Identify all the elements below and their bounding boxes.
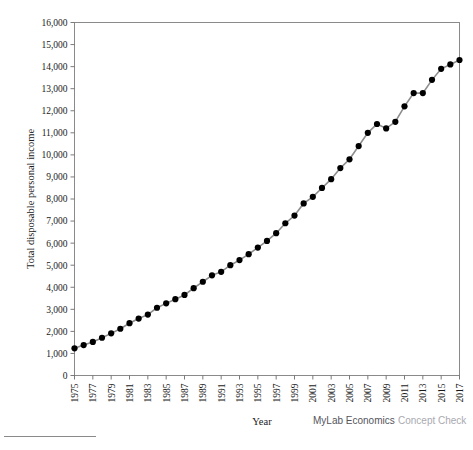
data-point bbox=[310, 194, 316, 200]
data-point bbox=[328, 176, 334, 182]
x-axis-tick-label: 1979 bbox=[107, 383, 117, 402]
x-axis-tick-label: 2007 bbox=[363, 383, 373, 402]
x-axis-tick-label: 2017 bbox=[455, 383, 465, 402]
x-axis-ticks: 1975197719791981198319851987198919911993… bbox=[70, 376, 465, 403]
data-point bbox=[365, 130, 371, 136]
data-point bbox=[255, 244, 261, 250]
data-point bbox=[126, 320, 132, 326]
y-axis-tick-label: 10,000 bbox=[41, 150, 67, 160]
y-axis-tick-label: 3,000 bbox=[46, 305, 68, 315]
data-point bbox=[346, 156, 352, 162]
data-point bbox=[172, 296, 178, 302]
x-axis-tick-label: 2003 bbox=[327, 383, 337, 402]
data-point bbox=[99, 335, 105, 341]
data-point bbox=[356, 143, 362, 149]
x-axis-tick-label: 1975 bbox=[70, 383, 80, 402]
data-point bbox=[108, 330, 114, 336]
y-axis-tick-label: 1,000 bbox=[46, 349, 68, 359]
data-point bbox=[420, 90, 426, 96]
concept-check-label: Concept Check bbox=[398, 415, 467, 426]
x-axis-tick-label: 1991 bbox=[217, 383, 227, 402]
data-point bbox=[90, 339, 96, 345]
x-axis-tick-label: 1981 bbox=[125, 383, 135, 402]
data-point bbox=[81, 342, 87, 348]
x-axis-tick-label: 1977 bbox=[88, 383, 98, 402]
y-axis-ticks: 01,0002,0003,0004,0005,0006,0007,0008,00… bbox=[41, 18, 74, 381]
data-point bbox=[181, 292, 187, 298]
data-point bbox=[392, 119, 398, 125]
data-point bbox=[200, 279, 206, 285]
data-point bbox=[429, 77, 435, 83]
data-point bbox=[401, 103, 407, 109]
y-axis-tick-label: 9,000 bbox=[46, 172, 68, 182]
y-axis-tick-label: 16,000 bbox=[41, 18, 67, 28]
data-point bbox=[273, 230, 279, 236]
data-point bbox=[264, 238, 270, 244]
x-axis-tick-label: 1993 bbox=[235, 383, 245, 402]
data-point bbox=[163, 300, 169, 306]
figure-container: 01,0002,0003,0004,0005,0006,0007,0008,00… bbox=[0, 0, 473, 450]
data-point bbox=[154, 305, 160, 311]
x-axis-tick-label: 2013 bbox=[418, 383, 428, 402]
x-axis-tick-label: 1995 bbox=[253, 383, 263, 402]
data-point bbox=[218, 269, 224, 275]
data-point bbox=[291, 212, 297, 218]
y-axis-tick-label: 7,000 bbox=[46, 216, 68, 226]
x-axis-tick-label: 1983 bbox=[143, 383, 153, 402]
x-axis-title: Year bbox=[252, 416, 272, 427]
y-axis-tick-label: 13,000 bbox=[41, 84, 67, 94]
x-axis-tick-label: 1999 bbox=[290, 383, 300, 402]
y-axis-tick-label: 4,000 bbox=[46, 283, 68, 293]
y-axis-tick-label: 0 bbox=[63, 371, 68, 381]
y-axis-tick-label: 2,000 bbox=[46, 327, 68, 337]
x-axis-tick-label: 2005 bbox=[345, 383, 355, 402]
data-point bbox=[71, 345, 77, 351]
y-axis-tick-label: 6,000 bbox=[46, 239, 68, 249]
data-point bbox=[438, 66, 444, 72]
data-point bbox=[374, 121, 380, 127]
income-line-chart: 01,0002,0003,0004,0005,0006,0007,0008,00… bbox=[0, 0, 473, 450]
data-point bbox=[117, 326, 123, 332]
y-axis-title: Total disposable personal income bbox=[25, 129, 36, 269]
y-axis-tick-label: 5,000 bbox=[46, 261, 68, 271]
data-point bbox=[136, 315, 142, 321]
y-axis-tick-label: 11,000 bbox=[42, 128, 68, 138]
y-axis-tick-label: 8,000 bbox=[46, 194, 68, 204]
data-point bbox=[411, 90, 417, 96]
data-point bbox=[301, 200, 307, 206]
mylab-economics-brand: MyLab Economics bbox=[313, 415, 395, 426]
data-point bbox=[456, 57, 462, 63]
data-point bbox=[209, 272, 215, 278]
x-axis-tick-label: 2001 bbox=[308, 383, 318, 402]
x-axis-tick-label: 2015 bbox=[437, 383, 447, 402]
data-point bbox=[246, 251, 252, 257]
x-axis-tick-label: 1985 bbox=[162, 383, 172, 402]
x-axis-tick-label: 2009 bbox=[382, 383, 392, 402]
data-point bbox=[145, 312, 151, 318]
data-point bbox=[191, 285, 197, 291]
x-axis-tick-label: 2011 bbox=[400, 383, 410, 402]
data-point bbox=[383, 125, 389, 131]
x-axis-tick-label: 1989 bbox=[198, 383, 208, 402]
data-point bbox=[236, 257, 242, 263]
y-axis-tick-label: 14,000 bbox=[41, 62, 67, 72]
data-point bbox=[227, 262, 233, 268]
data-point bbox=[447, 61, 453, 67]
x-axis-tick-label: 1997 bbox=[272, 383, 282, 402]
data-point bbox=[337, 165, 343, 171]
data-point bbox=[319, 185, 325, 191]
x-axis-tick-label: 1987 bbox=[180, 383, 190, 402]
y-axis-tick-label: 15,000 bbox=[41, 40, 67, 50]
y-axis-tick-label: 12,000 bbox=[41, 106, 67, 116]
data-point bbox=[282, 220, 288, 226]
